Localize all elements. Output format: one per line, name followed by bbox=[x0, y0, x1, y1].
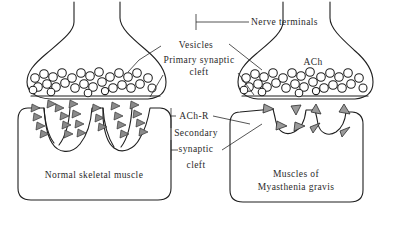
neuromuscular-junction-diagram: Normal skeletal muscle Muscles of Myasth… bbox=[0, 0, 394, 226]
normal-muscle-label: Normal skeletal muscle bbox=[45, 170, 144, 180]
myasthenia-muscle-label-line1: Muscles of bbox=[273, 169, 319, 179]
ach-label: ACh bbox=[303, 57, 322, 67]
secondary-synaptic-cleft-label-line3: cleft bbox=[187, 160, 206, 170]
right-vesicles bbox=[240, 68, 367, 97]
primary-synaptic-cleft-label-line2: cleft bbox=[190, 67, 209, 77]
myasthenia-muscle-label-line2: Myasthenia gravis bbox=[258, 182, 335, 192]
ach-receptor-label: ACh-R bbox=[179, 111, 209, 121]
vesicles-label: Vesicles bbox=[179, 40, 213, 50]
secondary-synaptic-cleft-label-line1: Secondary bbox=[174, 128, 218, 138]
nerve-terminals-label: Nerve terminals bbox=[251, 17, 318, 27]
normal-skeletal-muscle bbox=[18, 108, 171, 200]
secondary-synaptic-cleft-label-line2: synaptic bbox=[179, 144, 214, 154]
left-vesicles bbox=[29, 68, 156, 97]
primary-synaptic-cleft-label-line1: Primary synaptic bbox=[163, 55, 234, 65]
